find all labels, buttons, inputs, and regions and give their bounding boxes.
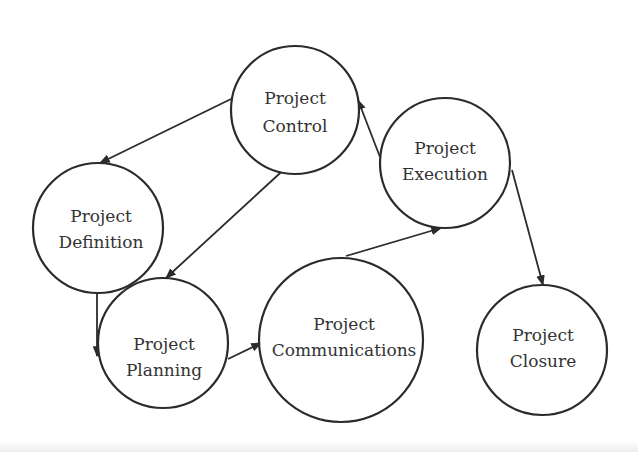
page-bottom-edge	[0, 440, 638, 452]
node-label-line1: Project	[133, 334, 195, 354]
process-diagram: Project Control Project Execution Projec…	[0, 0, 638, 452]
node-label-line2: Closure	[510, 351, 577, 371]
node-label-line1: Project	[70, 206, 132, 226]
edge-execution-to-control	[358, 100, 380, 157]
node-label-line2: Definition	[59, 232, 144, 252]
node-project-communications: Project Communications	[259, 258, 423, 422]
node-project-definition: Project Definition	[33, 163, 163, 293]
edge-execution-to-closure	[512, 170, 543, 285]
node-label-line2: Planning	[126, 360, 202, 380]
node-label-line2: Control	[263, 116, 328, 136]
node-label-line1: Project	[264, 88, 326, 108]
node-label-line1: Project	[313, 314, 375, 334]
node-project-execution: Project Execution	[380, 98, 510, 228]
node-label-line2: Execution	[402, 164, 488, 184]
node-label-line2: Communications	[272, 340, 417, 360]
node-project-planning: Project Planning	[98, 278, 228, 408]
node-label-line1: Project	[414, 138, 476, 158]
edge-planning-to-communications	[228, 343, 261, 359]
node-project-closure: Project Closure	[477, 285, 607, 415]
edge-control-to-definition	[100, 99, 231, 163]
edge-communications-to-execution	[346, 228, 441, 256]
edge-control-to-planning	[166, 164, 290, 278]
node-project-control: Project Control	[231, 46, 359, 174]
node-label-line1: Project	[512, 325, 574, 345]
